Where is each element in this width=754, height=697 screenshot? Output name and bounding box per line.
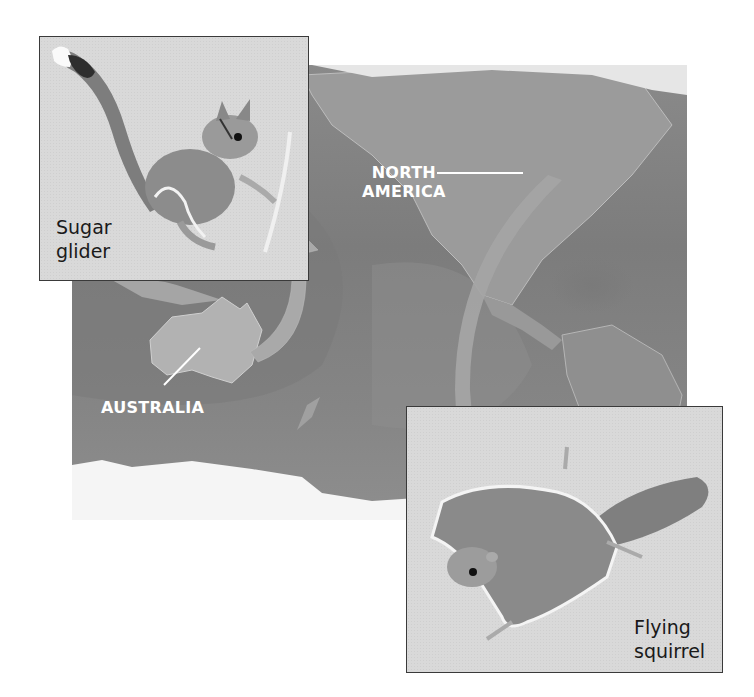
label-north-america: NORTH AMERICA — [362, 163, 446, 201]
label-north-america-line1: NORTH — [362, 163, 446, 182]
label-north-america-line2: AMERICA — [362, 182, 446, 201]
sugar-glider-inset: Sugar glider — [39, 36, 309, 281]
sugar-glider-label-line1: Sugar — [56, 215, 166, 239]
flying-squirrel-label-line2: squirrel — [634, 639, 724, 663]
sugar-glider-label: Sugar glider — [56, 215, 166, 263]
sugar-glider-label-line2: glider — [56, 239, 166, 263]
label-australia: AUSTRALIA — [101, 398, 204, 417]
flying-squirrel-inset: Flying squirrel — [406, 406, 723, 673]
north-america-landmass — [302, 65, 672, 305]
north-america-leader-line — [437, 172, 523, 174]
flying-squirrel-label: Flying squirrel — [634, 615, 724, 663]
flying-squirrel-label-line1: Flying — [634, 615, 724, 639]
